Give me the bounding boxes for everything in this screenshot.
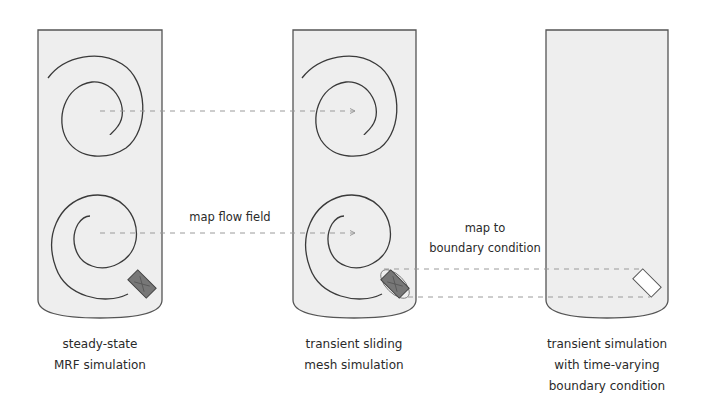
vessel-mrf <box>38 30 162 318</box>
label-line: map flow field <box>170 207 290 227</box>
map-to-boundary-label: map to boundary condition <box>420 218 550 258</box>
map-flow-field-label: map flow field <box>170 207 290 227</box>
caption-bc: transient simulation with time-varying b… <box>507 334 706 397</box>
caption-sliding: transient sliding mesh simulation <box>254 334 454 376</box>
label-line: boundary condition <box>420 238 550 258</box>
caption-line: MRF simulation <box>0 355 200 376</box>
label-line: map to <box>420 218 550 238</box>
caption-line: transient simulation <box>507 334 706 355</box>
vessel-sliding <box>293 30 416 318</box>
caption-line: boundary condition <box>507 376 706 397</box>
caption-line: steady-state <box>0 334 200 355</box>
caption-line: transient sliding <box>254 334 454 355</box>
caption-mrf: steady-state MRF simulation <box>0 334 200 376</box>
caption-line: with time-varying <box>507 355 706 376</box>
caption-line: mesh simulation <box>254 355 454 376</box>
vessel-bc <box>546 30 668 318</box>
